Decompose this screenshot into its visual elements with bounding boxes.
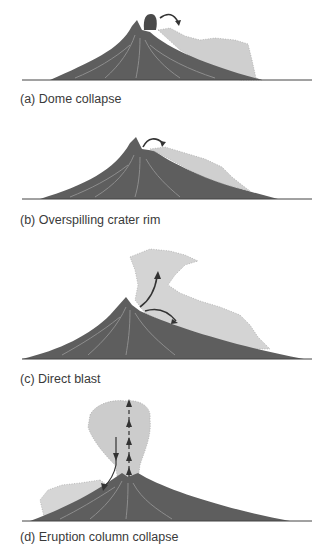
overspilling-illustration: [0, 125, 326, 205]
column-collapse-illustration: [0, 395, 326, 525]
panel-dome-collapse: (a) Dome collapse: [0, 0, 326, 110]
dome-collapse-illustration: [0, 0, 326, 90]
direct-blast-illustration: [0, 245, 326, 365]
collapse-arrow: [160, 15, 178, 22]
volcano-cone: [40, 137, 278, 199]
panel-overspilling-crater-rim: (b) Overspilling crater rim: [0, 125, 326, 230]
overspill-arrow: [143, 139, 163, 147]
caption-a: (a) Dome collapse: [20, 92, 121, 106]
caption-d: (d) Eruption column collapse: [20, 530, 178, 544]
lava-dome: [144, 14, 157, 30]
panel-eruption-column-collapse: (d) Eruption column collapse: [0, 395, 326, 545]
caption-b: (b) Overspilling crater rim: [20, 213, 160, 227]
eruption-column: [88, 401, 150, 480]
panel-direct-blast: (c) Direct blast: [0, 245, 326, 390]
caption-c: (c) Direct blast: [20, 372, 101, 386]
